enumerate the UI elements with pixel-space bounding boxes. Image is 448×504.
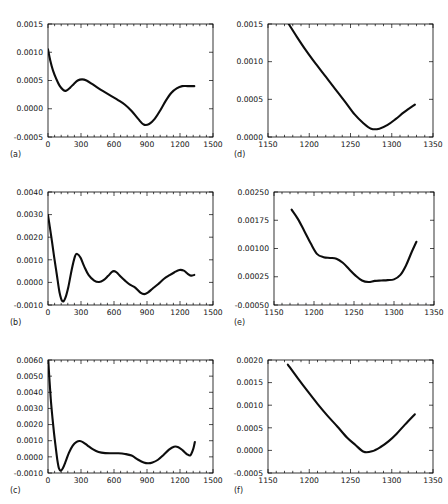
x-tick-label: 1200 [300,476,319,485]
panel-label-d: (d) [234,150,245,159]
x-tick-label: 1500 [203,476,222,485]
subplot-b: 030060090012001500-0.00100.00000.00100.0… [0,170,224,336]
y-tick-label: -0.0005 [234,469,263,478]
x-tick-label: 300 [74,476,89,485]
y-tick-label: 0.0000 [16,453,43,462]
y-tick-label: 0.0010 [16,48,43,57]
x-tick-label: 0 [46,476,51,485]
y-tick-label: 0.0015 [236,378,263,387]
y-tick-label: -0.0010 [14,469,43,478]
y-tick-label: 0.0030 [16,210,43,219]
panel-label-a: (a) [10,150,21,159]
subplot-f: 11501200125013001350-0.00050.00000.00050… [224,338,448,504]
x-tick-label: 1200 [300,140,319,149]
y-tick-label: 0.0010 [16,436,43,445]
data-curve [288,365,415,453]
y-tick-label: 0.0050 [16,372,43,381]
y-tick-label: 0.0030 [16,404,43,413]
y-tick-label: -0.00050 [235,301,269,310]
plot-frame [268,24,433,137]
x-tick-label: 600 [107,140,122,149]
figure-panel-grid: 030060090012001500-0.00050.00000.00050.0… [0,0,448,504]
y-tick-label: 0.0040 [16,188,43,197]
y-tick-label: 0.0040 [16,388,43,397]
x-tick-label: 1350 [424,308,443,317]
x-tick-label: 1350 [423,140,442,149]
x-tick-label: 1300 [382,476,401,485]
y-tick-label: 0.0010 [16,256,43,265]
x-tick-label: 1200 [170,476,189,485]
data-curve [288,22,415,129]
y-tick-label: -0.0005 [14,133,43,142]
y-tick-label: 0.0005 [16,76,43,85]
y-tick-label: 0.0005 [236,424,263,433]
y-tick-label: 0.0005 [236,95,263,104]
x-tick-label: 1300 [382,140,401,149]
y-tick-label: 0.0020 [236,356,263,365]
x-tick-label: 1250 [341,140,360,149]
x-tick-label: 1200 [304,308,323,317]
y-tick-label: 0.00175 [238,216,270,225]
y-tick-label: 0.0000 [236,133,263,142]
subplot-a: 030060090012001500-0.00050.00000.00050.0… [0,2,224,168]
subplot-d: 115012001250130013500.00000.00050.00100.… [224,2,448,168]
subplot-c-canvas: 030060090012001500-0.00100.00000.00100.0… [0,338,224,504]
subplot-e-canvas: 11501200125013001350-0.000500.000250.001… [224,170,448,336]
panel-label-f: (f) [234,486,243,495]
data-curve [48,49,194,125]
x-tick-label: 0 [46,308,51,317]
data-curve [48,215,194,301]
x-tick-label: 900 [140,476,155,485]
y-tick-label: 0.0000 [16,104,43,113]
x-tick-label: 600 [107,308,122,317]
y-tick-label: 0.0015 [16,20,43,29]
x-tick-label: 1200 [170,140,189,149]
panel-label-c: (c) [10,486,21,495]
plot-frame [274,192,434,305]
data-curve [292,210,417,282]
plot-frame [48,192,213,305]
y-tick-label: 0.0020 [16,420,43,429]
y-tick-label: 0.0060 [16,356,43,365]
y-tick-label: 0.00100 [238,244,270,253]
panel-label-e: (e) [234,318,245,327]
y-tick-label: 0.0000 [236,446,263,455]
x-tick-label: 900 [140,308,155,317]
x-tick-label: 1250 [341,476,360,485]
subplot-f-canvas: 11501200125013001350-0.00050.00000.00050… [224,338,448,504]
x-tick-label: 600 [107,476,122,485]
plot-frame [48,24,213,137]
subplot-a-canvas: 030060090012001500-0.00050.00000.00050.0… [0,2,224,168]
subplot-e: 11501200125013001350-0.000500.000250.001… [224,170,448,336]
x-tick-label: 1250 [344,308,363,317]
x-tick-label: 0 [46,140,51,149]
y-tick-label: 0.0010 [236,401,263,410]
y-tick-label: 0.0000 [16,278,43,287]
x-tick-label: 1500 [203,140,222,149]
data-curve [48,355,195,470]
plot-frame [268,360,433,473]
panel-label-b: (b) [10,318,21,327]
x-tick-label: 1300 [384,308,403,317]
subplot-d-canvas: 115012001250130013500.00000.00050.00100.… [224,2,448,168]
x-tick-label: 300 [74,140,89,149]
x-tick-label: 1350 [423,476,442,485]
subplot-b-canvas: 030060090012001500-0.00100.00000.00100.0… [0,170,224,336]
y-tick-label: 0.0010 [236,57,263,66]
y-tick-label: -0.0010 [14,301,43,310]
y-tick-label: 0.00025 [238,272,270,281]
x-tick-label: 900 [140,140,155,149]
y-tick-label: 0.00250 [238,188,270,197]
x-tick-label: 300 [74,308,89,317]
y-tick-label: 0.0020 [16,233,43,242]
subplot-c: 030060090012001500-0.00100.00000.00100.0… [0,338,224,504]
y-tick-label: 0.0015 [236,20,263,29]
x-tick-label: 1500 [203,308,222,317]
x-tick-label: 1200 [170,308,189,317]
